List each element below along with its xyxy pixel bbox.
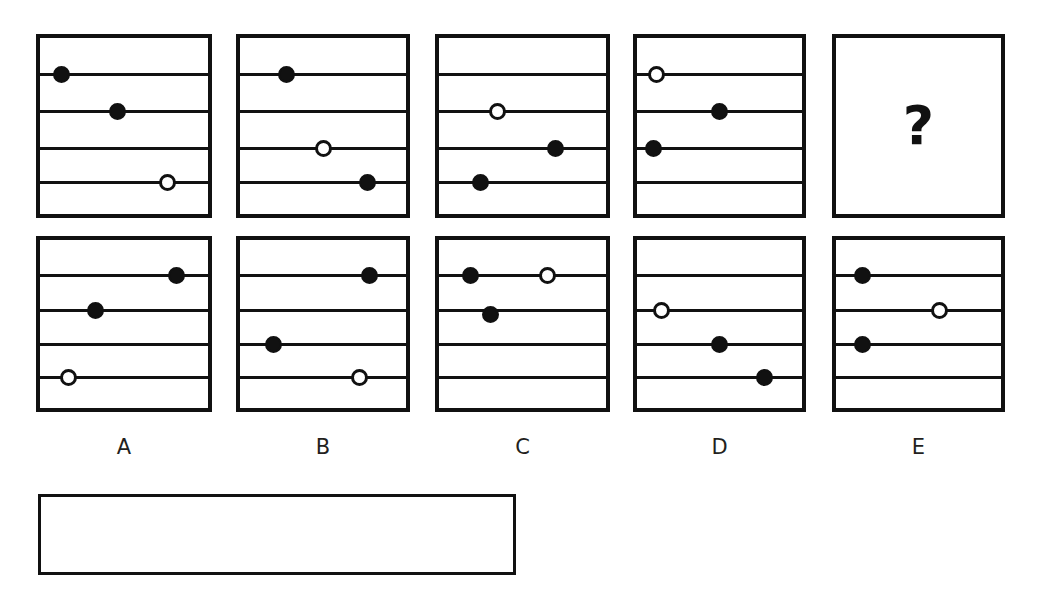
marker-filled-line3 xyxy=(265,336,282,353)
option-label-d: D xyxy=(633,437,806,458)
staff-line-3 xyxy=(40,343,208,346)
staff-line-3 xyxy=(40,147,208,150)
marker-filled-line2 xyxy=(109,103,126,120)
puzzle-canvas: ?ABCDE xyxy=(0,0,1039,613)
staff-line-4 xyxy=(439,181,606,184)
option-label-c: C xyxy=(435,437,610,458)
marker-open-line4 xyxy=(351,369,368,386)
marker-filled-line1 xyxy=(854,267,871,284)
marker-open-line2 xyxy=(489,103,506,120)
marker-open-line1 xyxy=(539,267,556,284)
staff-line-1 xyxy=(439,73,606,76)
marker-filled-line3 xyxy=(711,336,728,353)
option-label-e: E xyxy=(832,437,1005,458)
staff-line-4 xyxy=(40,181,208,184)
option-label-b: B xyxy=(236,437,410,458)
answer-option-b[interactable] xyxy=(236,236,410,412)
answer-option-d[interactable] xyxy=(633,236,806,412)
staff-line-4 xyxy=(836,376,1001,379)
staff-line-2 xyxy=(40,309,208,312)
staff-line-3 xyxy=(439,343,606,346)
staff-line-2 xyxy=(439,110,606,113)
marker-filled-line2 xyxy=(87,302,104,319)
marker-filled-line1 xyxy=(462,267,479,284)
staff-line-2 xyxy=(836,309,1001,312)
marker-filled-line4 xyxy=(756,369,773,386)
marker-open-line4 xyxy=(159,174,176,191)
sequence-panel-2 xyxy=(236,34,410,218)
marker-filled-line1 xyxy=(168,267,185,284)
staff-line-1 xyxy=(240,274,406,277)
marker-filled-line4 xyxy=(472,174,489,191)
marker-filled-line3 xyxy=(547,140,564,157)
marker-filled-line1 xyxy=(361,267,378,284)
marker-open-line2 xyxy=(653,302,670,319)
sequence-panel-4 xyxy=(633,34,806,218)
option-label-a: A xyxy=(36,437,212,458)
staff-line-2 xyxy=(439,309,606,312)
staff-line-4 xyxy=(637,376,802,379)
staff-line-3 xyxy=(439,147,606,150)
sequence-panel-unknown: ? xyxy=(832,34,1005,218)
marker-open-line3 xyxy=(315,140,332,157)
sequence-panel-1 xyxy=(36,34,212,218)
staff-line-1 xyxy=(240,73,406,76)
marker-filled-line2 xyxy=(482,306,499,323)
staff-line-4 xyxy=(240,181,406,184)
answer-entry-box[interactable] xyxy=(38,494,516,575)
marker-open-line4 xyxy=(60,369,77,386)
staff-line-2 xyxy=(240,309,406,312)
sequence-panel-3 xyxy=(435,34,610,218)
answer-option-a[interactable] xyxy=(36,236,212,412)
marker-filled-line1 xyxy=(278,66,295,83)
marker-filled-line2 xyxy=(711,103,728,120)
staff-line-4 xyxy=(637,181,802,184)
staff-line-1 xyxy=(637,274,802,277)
staff-line-4 xyxy=(439,376,606,379)
answer-option-e[interactable] xyxy=(832,236,1005,412)
question-mark: ? xyxy=(836,99,1001,153)
marker-open-line2 xyxy=(931,302,948,319)
staff-line-4 xyxy=(240,376,406,379)
answer-option-c[interactable] xyxy=(435,236,610,412)
marker-filled-line1 xyxy=(53,66,70,83)
marker-open-line1 xyxy=(648,66,665,83)
marker-filled-line4 xyxy=(359,174,376,191)
staff-line-2 xyxy=(240,110,406,113)
marker-filled-line3 xyxy=(645,140,662,157)
marker-filled-line3 xyxy=(854,336,871,353)
